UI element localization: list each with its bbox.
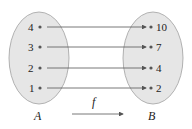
codomain-point — [149, 45, 152, 48]
codomain-element: 7 — [156, 41, 162, 53]
codomain-point — [149, 25, 152, 28]
domain-element: 4 — [28, 21, 34, 33]
set-b-ellipse — [123, 12, 183, 104]
codomain-point — [149, 86, 152, 89]
domain-point — [38, 86, 41, 89]
codomain-element: 2 — [156, 82, 162, 94]
domain-element: 2 — [28, 62, 34, 74]
function-label: f — [92, 95, 97, 109]
set-a-label: A — [33, 109, 42, 123]
domain-point — [38, 25, 41, 28]
codomain-element: 10 — [156, 21, 168, 33]
domain-element: 3 — [28, 41, 34, 53]
set-b-label: B — [148, 109, 156, 123]
function-mapping-diagram: 4 3 2 1 10 7 4 2 A B f — [0, 0, 192, 129]
codomain-element: 4 — [156, 62, 162, 74]
codomain-point — [149, 66, 152, 69]
domain-element: 1 — [29, 82, 35, 94]
domain-point — [38, 45, 41, 48]
domain-point — [38, 66, 41, 69]
